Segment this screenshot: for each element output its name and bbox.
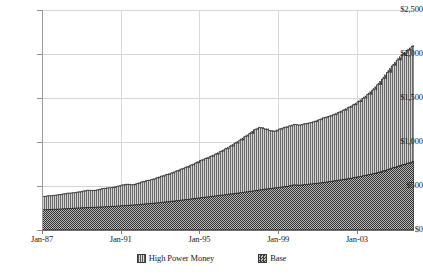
- x-axis-tick-label: Jan-91: [91, 234, 151, 244]
- y-axis-tick-label: $1,000: [385, 137, 423, 146]
- x-axis-tick-mark: [199, 230, 200, 234]
- chart-legend: High Power Money Base: [0, 254, 423, 263]
- money-supply-area-chart: $0$500$1,000$1,500$2,000$2,500 Jan-87Jan…: [0, 0, 423, 275]
- x-axis-tick-mark: [357, 230, 358, 234]
- y-axis-tick-mark: [37, 142, 42, 143]
- y-axis-tick-mark: [37, 54, 42, 55]
- x-axis-tick-mark: [278, 230, 279, 234]
- legend-label-base: Base: [270, 254, 286, 263]
- x-axis-tick-label: Jan-95: [169, 234, 229, 244]
- x-axis-tick-label: Jan-99: [248, 234, 308, 244]
- y-axis-line: [42, 10, 43, 231]
- y-axis-tick-label: $2,000: [385, 49, 423, 58]
- legend-item-base: Base: [258, 254, 286, 263]
- plot-area: [42, 10, 414, 230]
- series-layer: [42, 10, 414, 230]
- y-axis-tick-label: $1,500: [385, 93, 423, 102]
- x-axis-tick-label: Jan-03: [327, 234, 387, 244]
- legend-item-high-power-money: High Power Money: [137, 254, 214, 263]
- x-axis-tick-label: Jan-87: [12, 234, 72, 244]
- y-axis-tick-mark: [37, 10, 42, 11]
- y-axis-tick-mark: [37, 98, 42, 99]
- x-axis-tick-mark: [121, 230, 122, 234]
- legend-swatch-base-icon: [258, 254, 267, 263]
- y-axis-tick-label: $2,500: [385, 5, 423, 14]
- legend-label-high-power-money: High Power Money: [149, 254, 214, 263]
- x-axis-tick-mark: [42, 230, 43, 234]
- y-axis-tick-label: $500: [385, 181, 423, 190]
- legend-swatch-high-power-money-icon: [137, 254, 146, 263]
- y-axis-tick-label: $0: [385, 225, 423, 234]
- x-axis-line: [42, 230, 414, 231]
- y-axis-tick-mark: [37, 186, 42, 187]
